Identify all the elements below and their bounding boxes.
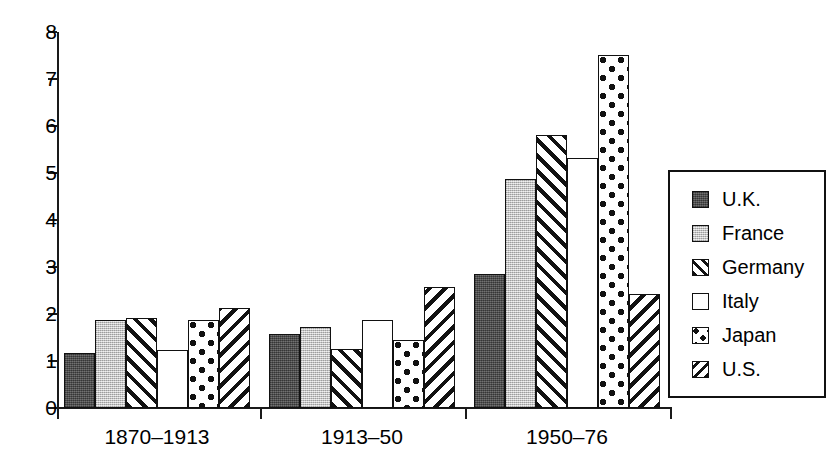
legend-swatch-icon [692,361,709,378]
bar-uk-1913-50 [269,334,300,408]
legend-swatch-icon [692,225,709,242]
bar-japan-1913-50 [393,340,424,408]
y-tick-label: 8 [13,21,57,42]
legend-label: Germany [722,257,804,277]
legend-label: U.K. [722,189,761,209]
bar-us-1870-1913 [219,308,250,408]
bar-us-1950-76 [629,294,660,408]
bar-germany-1913-50 [331,349,362,408]
bar-japan-1950-76 [598,55,629,408]
bar-germany-1870-1913 [126,318,157,408]
bar-germany-1950-76 [536,135,567,408]
legend-label: U.S. [722,359,761,379]
bar-japan-1870-1913 [188,320,219,408]
legend-swatch-icon [692,293,709,310]
legend-box: U.K.FranceGermanyItalyJapanU.S. [668,170,826,398]
legend-item-uk[interactable]: U.K. [692,182,824,216]
x-group-separator-tick [260,409,262,419]
x-axis-end-tick [670,409,672,419]
legend-swatch-icon [692,259,709,276]
plot-area: 012345678 1870–19131913–501950–76 [0,0,700,468]
legend-item-italy[interactable]: Italy [692,284,824,318]
legend-label: France [722,223,784,243]
y-tick-label: 7 [13,68,57,89]
legend-item-us[interactable]: U.S. [692,352,824,386]
y-tick-label: 1 [13,350,57,371]
x-axis-start-tick [57,409,59,419]
y-tick-label: 4 [13,209,57,230]
bar-chart-figure: 012345678 1870–19131913–501950–76 U.K.Fr… [0,0,837,468]
x-tick-label: 1950–76 [434,425,700,449]
bar-italy-1870-1913 [157,350,188,408]
bar-france-1913-50 [300,327,331,408]
y-tick-label: 3 [13,256,57,277]
legend-item-japan[interactable]: Japan [692,318,824,352]
legend-swatch-icon [692,327,709,344]
legend-label: Italy [722,291,759,311]
bar-italy-1913-50 [362,320,393,408]
x-group-separator-tick [465,409,467,419]
legend-item-germany[interactable]: Germany [692,250,824,284]
bars-layer [57,32,672,408]
y-tick-label: 5 [13,162,57,183]
legend-label: Japan [722,325,777,345]
legend-item-france[interactable]: France [692,216,824,250]
bar-france-1870-1913 [95,320,126,408]
bar-italy-1950-76 [567,158,598,409]
bar-us-1913-50 [424,287,455,408]
y-tick-label: 2 [13,303,57,324]
y-tick-label: 6 [13,115,57,136]
bar-uk-1950-76 [474,274,505,408]
bar-uk-1870-1913 [64,353,95,408]
y-tick-label: 0 [13,397,57,418]
bar-france-1950-76 [505,179,536,408]
legend-swatch-icon [692,191,709,208]
